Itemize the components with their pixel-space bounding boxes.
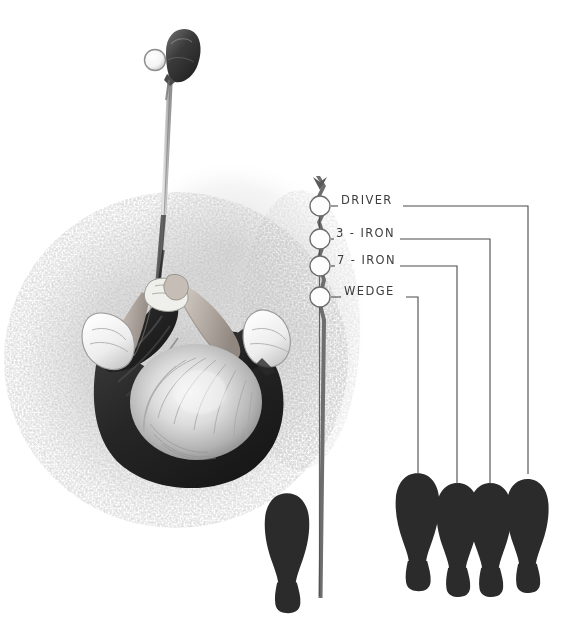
golfer-head-hair <box>130 344 262 460</box>
ball-marker-wedge <box>310 287 330 307</box>
club-label-3-iron: 3 - IRON <box>336 227 395 240</box>
footprint-wedge <box>396 473 440 591</box>
ball-marker-7-iron <box>310 256 330 276</box>
golf-stance-illustration: DRIVER 3 - IRON 7 - IRON WEDGE <box>0 0 574 632</box>
footprint-driver <box>506 479 548 593</box>
illustration-artwork <box>0 0 574 632</box>
footprint-reference-left-foot <box>265 493 310 613</box>
club-label-7-iron: 7 - IRON <box>337 254 396 267</box>
footprint-3-iron <box>469 483 511 597</box>
stance-footprints <box>396 473 549 597</box>
ball-marker-driver <box>310 196 330 216</box>
ball-marker-3-iron <box>310 229 330 249</box>
club-label-driver: DRIVER <box>341 194 393 207</box>
golf-ball-at-address <box>145 50 166 71</box>
club-label-wedge: WEDGE <box>344 285 395 298</box>
